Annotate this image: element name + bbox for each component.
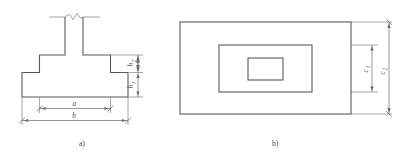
dimension-subscript-c2: 2 xyxy=(382,67,388,70)
dimension-h1: h 1 xyxy=(127,73,139,98)
technical-drawing-canvas: h 2 h 1 a xyxy=(0,0,414,159)
inner-rectangle xyxy=(248,58,283,80)
dimension-h2: h 2 xyxy=(127,55,139,73)
dimension-subscript-c1: 1 xyxy=(365,66,371,69)
figure-root: h 2 h 1 a xyxy=(0,0,414,159)
footing-section-outline xyxy=(22,17,128,97)
column-break-symbol xyxy=(49,14,100,20)
middle-rectangle xyxy=(219,45,312,92)
dimension-c1: c 1 xyxy=(362,45,374,92)
caption-panel-a: a) xyxy=(79,139,85,148)
outer-rectangle xyxy=(180,22,351,114)
dimension-a: a xyxy=(40,100,111,110)
dimension-c2: c 2 xyxy=(379,22,391,114)
caption-panel-b: b) xyxy=(272,139,279,148)
dimension-label-b: b xyxy=(72,112,76,120)
dimension-subscript-h1: 1 xyxy=(131,82,137,85)
dimension-b: b xyxy=(22,112,128,122)
dimension-subscript-h2: 2 xyxy=(131,59,137,62)
dimension-label-a: a xyxy=(72,100,76,108)
panel-a-group: h 2 h 1 a xyxy=(22,14,143,148)
panel-b-group: c 1 c 2 b) xyxy=(180,22,392,148)
